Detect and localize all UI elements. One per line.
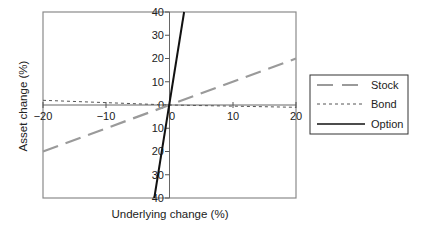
x-tick-label: 10 xyxy=(227,110,239,122)
legend-label-stock: Stock xyxy=(371,79,399,91)
y-tick-label: 40 xyxy=(152,6,164,18)
legend: Stock Bond Option xyxy=(310,75,408,134)
x-axis-title: Underlying change (%) xyxy=(112,208,229,220)
y-tick-label: 10 xyxy=(152,76,164,88)
y-tick-label: 20 xyxy=(152,52,164,64)
legend-label-bond: Bond xyxy=(371,98,397,110)
y-tick-label: 10 xyxy=(152,122,164,134)
legend-label-option: Option xyxy=(371,118,403,130)
y-axis-title: Asset change (%) xyxy=(17,60,29,151)
x-tick-label: 0 xyxy=(169,110,175,122)
x-tick-label: −10 xyxy=(97,110,116,122)
chart: −20 −10 0 10 20 40 30 20 10 0 10 20 30 4… xyxy=(0,0,426,229)
y-tick-label: 40 xyxy=(152,192,164,204)
x-tick-label: 20 xyxy=(290,110,302,122)
y-tick-label: 30 xyxy=(152,29,164,41)
x-tick-label: −20 xyxy=(34,110,53,122)
